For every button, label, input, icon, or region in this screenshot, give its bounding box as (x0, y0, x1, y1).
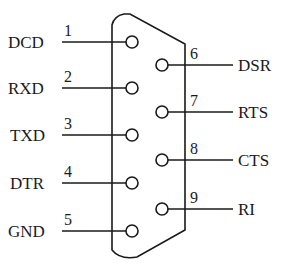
left-pin-5: GND 5 (8, 211, 138, 241)
right-pin-6: 6 DSR (156, 45, 272, 75)
left-pin-4: DTR 4 (10, 163, 138, 193)
pin-7-signal-label: RTS (238, 103, 268, 122)
right-pin-7: 7 RTS (156, 92, 268, 122)
pin-5-signal-label: GND (8, 222, 45, 241)
left-pin-2: RXD 2 (8, 68, 138, 98)
pin-9-contact (156, 203, 168, 215)
pin-5-contact (126, 225, 138, 237)
db9-pinout-diagram: DCD 1 RXD 2 TXD 3 DTR 4 GND 5 6 DSR 7 (0, 0, 281, 267)
pin-6-number: 6 (190, 45, 198, 62)
pin-1-contact (126, 36, 138, 48)
pin-8-number: 8 (190, 140, 198, 157)
pin-1-number: 1 (64, 22, 72, 39)
pin-9-number: 9 (190, 189, 198, 206)
pin-9-signal-label: RI (238, 200, 255, 219)
pin-2-number: 2 (64, 68, 72, 85)
pin-3-signal-label: TXD (10, 126, 45, 145)
left-pin-1: DCD 1 (8, 22, 138, 52)
right-pin-8: 8 CTS (156, 140, 269, 170)
pin-4-signal-label: DTR (10, 174, 45, 193)
pin-7-contact (156, 106, 168, 118)
pin-3-number: 3 (64, 115, 72, 132)
pin-1-signal-label: DCD (8, 33, 44, 52)
pin-6-contact (156, 59, 168, 71)
pin-5-number: 5 (64, 211, 72, 228)
pin-6-signal-label: DSR (238, 56, 272, 75)
pin-3-contact (126, 129, 138, 141)
pin-8-contact (156, 154, 168, 166)
pin-7-number: 7 (190, 92, 198, 109)
pin-8-signal-label: CTS (238, 151, 269, 170)
pin-2-signal-label: RXD (8, 79, 44, 98)
pin-4-contact (126, 177, 138, 189)
pin-2-contact (126, 82, 138, 94)
connector-outline (112, 14, 185, 258)
left-pin-3: TXD 3 (10, 115, 138, 145)
right-pin-9: 9 RI (156, 189, 255, 219)
pin-4-number: 4 (64, 163, 72, 180)
